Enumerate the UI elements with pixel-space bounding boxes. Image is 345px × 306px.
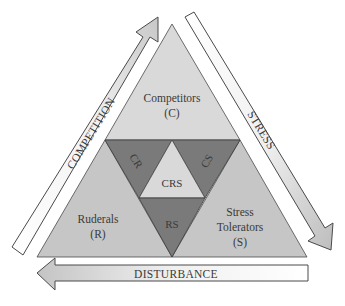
disturbance-label: DISTURBANCE <box>134 268 218 280</box>
competitors-label: Competitors <box>144 92 201 105</box>
crs-label: CRS <box>162 177 183 189</box>
rs-label: RS <box>165 218 178 230</box>
stress-tolerators-label-line1: Stress <box>226 206 254 218</box>
ruderals-label: Ruderals <box>78 213 119 225</box>
ruderals-abbr: (R) <box>90 228 106 241</box>
csr-triangle-diagram: COMPETITION STRESS Competitors (C) CR CS… <box>0 0 345 306</box>
stress-tolerators-label-line2: Tolerators <box>217 221 264 233</box>
region-competitors <box>105 24 240 140</box>
stress-tolerators-abbr: (S) <box>233 236 247 249</box>
disturbance-arrow: DISTURBANCE <box>37 258 308 290</box>
competitors-abbr: (C) <box>164 107 180 120</box>
